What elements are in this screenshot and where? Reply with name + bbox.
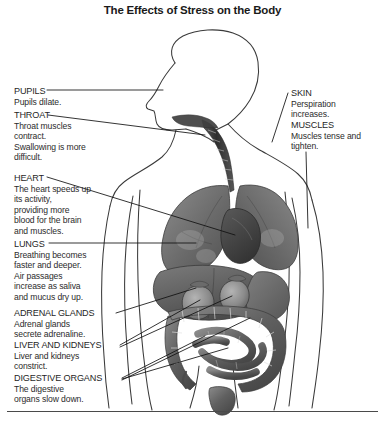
label-skin-line-1: increases. xyxy=(291,109,336,120)
label-throat-line-1: contract. xyxy=(14,131,86,142)
label-skin-head: SKIN xyxy=(291,88,336,99)
label-throat-line-2: Swallowing is more xyxy=(14,142,86,153)
label-pupils: PUPILS Pupils dilate. xyxy=(14,86,61,107)
label-pupils-head: PUPILS xyxy=(14,86,61,97)
leader-line-muscles xyxy=(306,152,308,228)
small-intestine-organ xyxy=(196,331,263,377)
leader-line-digestive-1 xyxy=(122,336,205,378)
label-skin-line-0: Perspiration xyxy=(291,99,336,110)
label-muscles: MUSCLES Muscles tense and tighten. xyxy=(291,120,361,152)
label-heart: HEART The heart speeds up its activity, … xyxy=(14,173,91,237)
large-intestine-organ xyxy=(165,316,196,390)
label-liver-and-kidneys-line-0: Liver and kidneys xyxy=(14,351,101,362)
label-adrenal-glands-line-0: Adrenal glands xyxy=(14,319,94,330)
label-skin: SKIN Perspiration increases. xyxy=(291,88,336,120)
label-digestive-organs-line-0: The digestive xyxy=(14,384,102,395)
label-throat: THROAT Throat muscles contract. Swallowi… xyxy=(14,110,86,163)
label-liver-and-kidneys: LIVER AND KIDNEYS Liver and kidneys cons… xyxy=(14,340,101,372)
label-adrenal-glands: ADRENAL GLANDS Adrenal glands secrete ad… xyxy=(14,308,94,340)
label-lungs-line-1: faster and deeper. xyxy=(14,260,86,271)
label-lungs-line-4: and mucus dry up. xyxy=(14,292,86,303)
label-muscles-head: MUSCLES xyxy=(291,120,361,131)
label-digestive-organs-line-1: organs slow down. xyxy=(14,394,102,405)
label-throat-line-0: Throat muscles xyxy=(14,121,86,132)
label-lungs-line-3: increase as saliva xyxy=(14,281,86,292)
label-liver-and-kidneys-head: LIVER AND KIDNEYS xyxy=(14,340,101,351)
label-lungs-line-0: Breathing becomes xyxy=(14,250,86,261)
label-heart-line-1: its activity, xyxy=(14,194,91,205)
label-throat-head: THROAT xyxy=(14,110,86,121)
label-digestive-organs-head: DIGESTIVE ORGANS xyxy=(14,373,102,384)
label-heart-line-2: providing more xyxy=(14,205,91,216)
label-lungs-line-2: Air passages xyxy=(14,271,86,282)
label-heart-line-3: blood for the brain xyxy=(14,215,91,226)
trachea-organ xyxy=(202,120,234,192)
label-muscles-line-1: tighten. xyxy=(291,141,361,152)
label-heart-head: HEART xyxy=(14,173,91,184)
label-lungs-head: LUNGS xyxy=(14,239,86,250)
label-liver-and-kidneys-line-1: constrict. xyxy=(14,361,101,372)
label-adrenal-glands-head: ADRENAL GLANDS xyxy=(14,308,94,319)
leader-line-skin xyxy=(272,93,288,142)
label-muscles-line-0: Muscles tense and xyxy=(291,131,361,142)
label-throat-line-3: difficult. xyxy=(14,152,86,163)
diagram-page: The Effects of Stress on the Body xyxy=(0,0,385,426)
bottom-divider xyxy=(7,411,378,412)
label-pupils-line-0: Pupils dilate. xyxy=(14,97,61,108)
label-digestive-organs: DIGESTIVE ORGANS The digestive organs sl… xyxy=(14,373,102,405)
label-heart-line-4: and muscles. xyxy=(14,226,91,237)
label-heart-line-0: The heart speeds up xyxy=(14,184,91,195)
label-lungs: LUNGS Breathing becomes faster and deepe… xyxy=(14,239,86,303)
label-adrenal-glands-line-1: secrete adrenaline. xyxy=(14,329,94,340)
